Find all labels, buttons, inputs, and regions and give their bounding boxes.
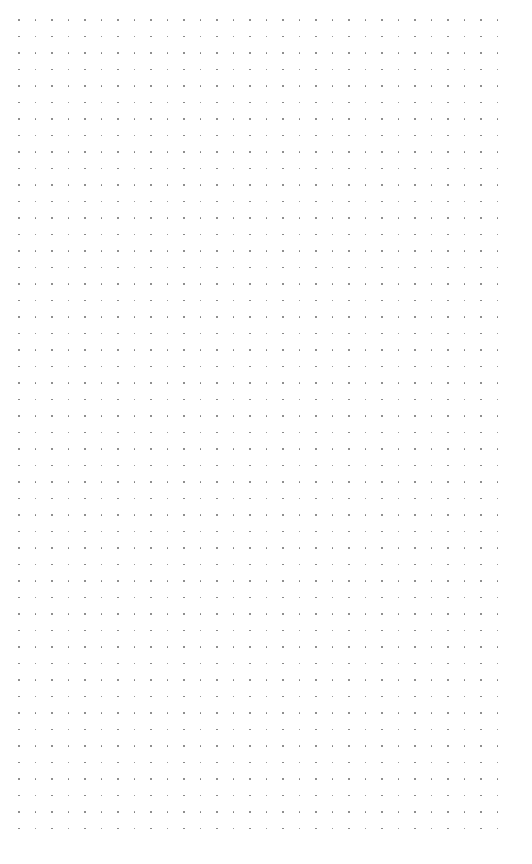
- grid-dot: [480, 663, 482, 665]
- grid-dot: [299, 663, 301, 665]
- grid-dot: [216, 762, 218, 764]
- grid-dot: [117, 514, 119, 516]
- grid-dot: [365, 795, 367, 797]
- grid-dot: [414, 349, 416, 351]
- grid-dot: [51, 300, 53, 302]
- grid-dot: [282, 366, 284, 368]
- grid-dot: [299, 382, 301, 384]
- grid-dot: [266, 630, 268, 632]
- grid-dot: [299, 349, 301, 351]
- grid-dot: [117, 36, 119, 38]
- grid-dot: [134, 118, 136, 120]
- grid-dot: [365, 201, 367, 203]
- grid-dot: [365, 729, 367, 731]
- grid-dot: [266, 778, 268, 780]
- grid-dot: [35, 712, 37, 714]
- grid-dot: [381, 217, 383, 219]
- grid-dot: [84, 679, 86, 681]
- grid-dot: [101, 663, 103, 665]
- grid-dot: [299, 151, 301, 153]
- grid-dot: [117, 151, 119, 153]
- grid-dot: [315, 762, 317, 764]
- grid-dot: [381, 745, 383, 747]
- grid-dot: [200, 778, 202, 780]
- grid-dot: [68, 696, 70, 698]
- grid-dot: [167, 184, 169, 186]
- grid-dot: [134, 795, 136, 797]
- grid-dot: [497, 19, 499, 21]
- grid-dot: [68, 679, 70, 681]
- grid-dot: [365, 415, 367, 417]
- grid-dot: [51, 613, 53, 615]
- grid-dot: [282, 201, 284, 203]
- grid-dot: [101, 300, 103, 302]
- grid-dot: [68, 300, 70, 302]
- grid-dot: [233, 465, 235, 467]
- grid-dot: [381, 267, 383, 269]
- grid-dot: [51, 597, 53, 599]
- grid-dot: [348, 762, 350, 764]
- grid-dot: [233, 712, 235, 714]
- grid-dot: [183, 234, 185, 236]
- grid-dot: [68, 201, 70, 203]
- grid-dot: [35, 465, 37, 467]
- grid-dot: [365, 36, 367, 38]
- grid-dot: [332, 613, 334, 615]
- grid-dot: [35, 151, 37, 153]
- grid-dot: [464, 250, 466, 252]
- grid-dot: [249, 52, 251, 54]
- grid-dot: [134, 630, 136, 632]
- grid-dot: [315, 399, 317, 401]
- grid-dot: [35, 745, 37, 747]
- grid-dot: [117, 333, 119, 335]
- grid-dot: [381, 333, 383, 335]
- grid-dot: [84, 217, 86, 219]
- grid-dot: [365, 465, 367, 467]
- grid-dot: [365, 250, 367, 252]
- grid-dot: [299, 168, 301, 170]
- grid-dot: [315, 267, 317, 269]
- grid-dot: [51, 580, 53, 582]
- grid-dot: [282, 250, 284, 252]
- grid-dot: [365, 366, 367, 368]
- grid-dot: [51, 399, 53, 401]
- grid-dot: [480, 151, 482, 153]
- grid-dot: [332, 696, 334, 698]
- grid-dot: [101, 151, 103, 153]
- grid-dot: [315, 597, 317, 599]
- grid-dot: [200, 531, 202, 533]
- grid-dot: [35, 217, 37, 219]
- grid-dot: [398, 564, 400, 566]
- grid-dot: [84, 762, 86, 764]
- grid-dot: [51, 283, 53, 285]
- grid-dot: [117, 597, 119, 599]
- grid-dot: [282, 349, 284, 351]
- grid-dot: [447, 283, 449, 285]
- grid-dot: [282, 498, 284, 500]
- grid-dot: [431, 630, 433, 632]
- grid-dot: [167, 514, 169, 516]
- grid-dot: [381, 778, 383, 780]
- grid-dot: [480, 168, 482, 170]
- grid-dot: [68, 564, 70, 566]
- grid-dot: [299, 613, 301, 615]
- grid-dot: [497, 234, 499, 236]
- grid-dot: [299, 184, 301, 186]
- grid-dot: [51, 267, 53, 269]
- grid-dot: [431, 778, 433, 780]
- grid-dot: [299, 646, 301, 648]
- grid-dot: [150, 498, 152, 500]
- grid-dot: [315, 382, 317, 384]
- grid-dot: [431, 399, 433, 401]
- grid-dot: [183, 432, 185, 434]
- grid-dot: [266, 448, 268, 450]
- grid-dot: [35, 448, 37, 450]
- grid-dot: [51, 795, 53, 797]
- grid-dot: [216, 828, 218, 830]
- grid-dot: [282, 762, 284, 764]
- grid-dot: [431, 151, 433, 153]
- grid-dot: [365, 646, 367, 648]
- grid-dot: [464, 316, 466, 318]
- grid-dot: [150, 36, 152, 38]
- grid-dot: [216, 349, 218, 351]
